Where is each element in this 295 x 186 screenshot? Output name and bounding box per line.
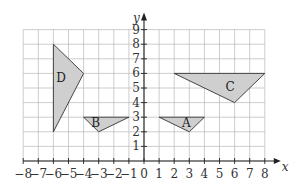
shape-label-b: B (91, 116, 100, 130)
x-tick-label: 4 (201, 167, 209, 181)
y-tick-label: 5 (132, 81, 140, 95)
x-tick-label: 3 (185, 167, 193, 181)
x-tick-label: 7 (246, 167, 254, 181)
y-tick-label: 3 (132, 110, 140, 124)
x-tick-label: 5 (216, 167, 224, 181)
y-tick-label: 2 (132, 125, 140, 139)
x-tick-label: 8 (261, 167, 269, 181)
y-axis-arrow-icon (141, 13, 147, 21)
y-tick-label: 6 (132, 66, 140, 80)
x-tick-label: 1 (155, 167, 163, 181)
y-tick-label: 4 (132, 96, 140, 110)
y-axis-label: y (132, 11, 140, 25)
coordinate-grid-diagram: ABCD −8−7−6−5−4−3−2−1012345678123456789x… (0, 0, 295, 186)
x-tick-label: 2 (170, 167, 178, 181)
x-tick-label: 0 (140, 167, 148, 181)
y-tick-label: 1 (132, 139, 140, 153)
shape-label-d: D (56, 71, 66, 85)
x-tick-label: 6 (231, 167, 239, 181)
y-tick-label: 8 (132, 37, 140, 51)
shape-label-a: A (181, 116, 191, 130)
x-tick-label: −1 (120, 167, 138, 181)
x-axis-label: x (282, 160, 289, 174)
shape-label-c: C (225, 80, 234, 94)
y-tick-label: 9 (132, 23, 140, 37)
y-tick-label: 7 (132, 52, 140, 66)
x-axis-arrow-icon (274, 158, 281, 164)
